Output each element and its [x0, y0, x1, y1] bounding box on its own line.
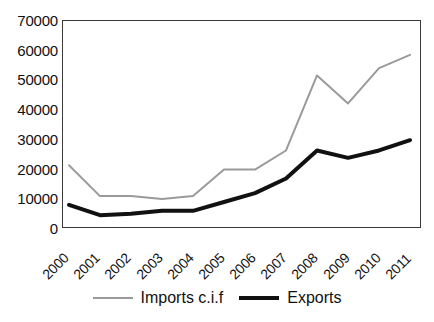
legend-label-imports: Imports c.i.f	[141, 290, 224, 306]
x-axis-tick-label: 2004	[164, 250, 195, 281]
legend-swatch-imports-icon	[93, 297, 133, 299]
x-axis-tick-label: 2008	[289, 250, 320, 281]
legend-swatch-exports-icon	[239, 296, 279, 300]
y-axis-tick-label: 0	[0, 221, 58, 236]
x-axis-tick-label: 2002	[102, 250, 133, 281]
series-line-exports	[69, 140, 410, 215]
x-axis-labels: 2000200120022003200420052006200720082009…	[62, 229, 421, 285]
y-axis-tick-label: 50000	[0, 72, 58, 87]
plot-lines	[63, 21, 420, 227]
series-line-imports	[69, 55, 410, 199]
x-axis-tick-label: 2003	[133, 250, 164, 281]
x-axis-tick-label: 2001	[71, 250, 102, 281]
y-axis-tick-label: 70000	[0, 13, 58, 28]
x-axis-tick-label: 2009	[320, 250, 351, 281]
y-axis-tick-label: 60000	[0, 43, 58, 58]
y-axis-tick-label: 10000	[0, 191, 58, 206]
y-axis-tick-label: 20000	[0, 162, 58, 177]
x-axis-tick-label: 2010	[352, 250, 383, 281]
legend-entry-exports: Exports	[239, 290, 341, 306]
x-axis-tick-label: 2000	[40, 250, 71, 281]
x-axis-tick-label: 2005	[196, 250, 227, 281]
y-axis-labels: 700006000050000400003000020000100000	[0, 0, 58, 240]
x-axis-tick-label: 2006	[227, 250, 258, 281]
legend-entry-imports: Imports c.i.f	[93, 290, 224, 306]
line-chart: 700006000050000400003000020000100000 200…	[0, 0, 434, 322]
y-axis-tick-label: 40000	[0, 102, 58, 117]
plot-area	[62, 20, 421, 228]
x-axis-tick-label: 2011	[383, 251, 414, 282]
legend-label-exports: Exports	[287, 290, 341, 306]
x-axis-tick-label: 2007	[258, 250, 289, 281]
chart-legend: Imports c.i.f Exports	[0, 290, 434, 306]
y-axis-tick-label: 30000	[0, 132, 58, 147]
